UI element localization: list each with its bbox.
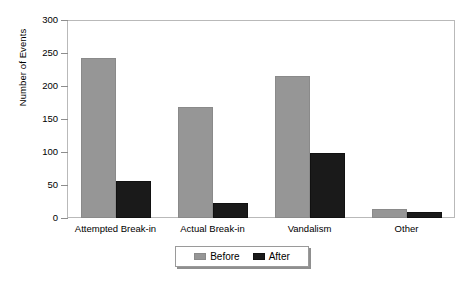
legend-item-after: After [253, 252, 290, 262]
y-axis-title: Number of Events [17, 8, 28, 128]
legend-label-before: Before [210, 252, 239, 262]
bar-before [275, 76, 310, 218]
y-axis-tick-label: 250 [18, 48, 58, 58]
legend: Before After [175, 246, 309, 267]
bar-after [213, 203, 248, 218]
bar-after [407, 212, 442, 218]
y-axis-tick-label-wrap: 50 [12, 180, 58, 190]
y-axis-tick-label: 100 [18, 147, 58, 157]
y-axis-tick-label: 150 [18, 114, 58, 124]
legend-item-before: Before [194, 252, 239, 262]
x-axis-category-label: Other [358, 223, 455, 234]
legend-swatch-after-icon [253, 253, 265, 260]
bar-chart: Number of Events 050100150200250300 Atte… [0, 0, 476, 285]
x-axis-category-label: Attempted Break-in [67, 223, 164, 234]
y-axis-tick-label: 200 [18, 81, 58, 91]
y-axis-tick-label-wrap: 0 [12, 213, 58, 223]
bar-after [116, 181, 151, 218]
y-axis-tick [61, 218, 68, 219]
y-axis-tick-label: 50 [18, 180, 58, 190]
y-axis-tick-label-wrap: 200 [12, 81, 58, 91]
bar-after [310, 153, 345, 218]
x-axis-category-label: Vandalism [261, 223, 358, 234]
x-axis-category-label: Actual Break-in [164, 223, 261, 234]
bar-before [372, 209, 407, 218]
bars-layer [67, 20, 455, 218]
y-axis-tick-label: 0 [18, 213, 58, 223]
y-axis-tick-label-wrap: 250 [12, 48, 58, 58]
y-axis-tick-label-wrap: 300 [12, 15, 58, 25]
bar-before [81, 58, 116, 218]
bar-before [178, 107, 213, 218]
y-axis-tick-label-wrap: 150 [12, 114, 58, 124]
legend-label-after: After [269, 252, 290, 262]
legend-swatch-before-icon [194, 253, 206, 260]
y-axis-tick-label: 300 [18, 15, 58, 25]
y-axis-tick-label-wrap: 100 [12, 147, 58, 157]
